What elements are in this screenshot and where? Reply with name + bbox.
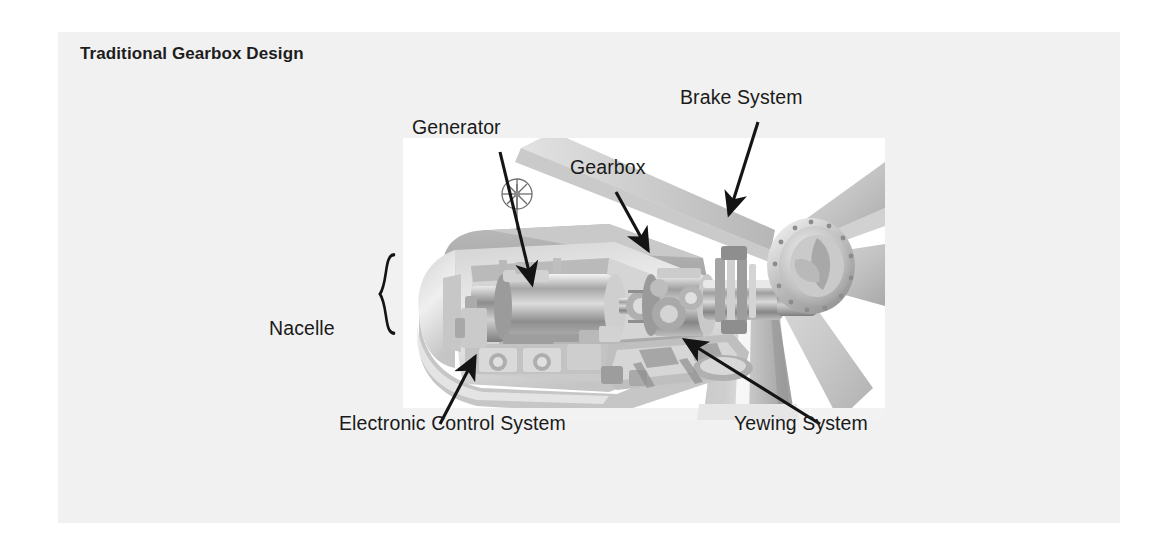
label-electronic-control-system: Electronic Control System [339,414,566,434]
figure-container: Generator Gearbox Brake System Nacelle E… [58,32,1120,523]
nacelle-brace [380,255,394,333]
turbine-cutaway-photo [403,138,885,420]
label-generator: Generator [412,118,501,138]
label-yewing-system: Yewing System [734,414,868,434]
label-nacelle: Nacelle [269,319,335,339]
label-brake-system: Brake System [680,88,803,108]
screenshot-root: Traditional Gearbox Design [0,0,1170,550]
label-gearbox: Gearbox [570,158,646,178]
